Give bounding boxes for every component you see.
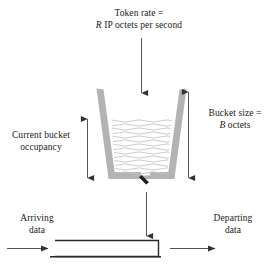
token-rate-units: IP octets per second <box>102 20 182 30</box>
token-rate-line2: R IP octets per second <box>84 20 194 32</box>
occupancy-line2: occupancy <box>6 142 76 154</box>
figure-canvas: Token rate = R IP octets per second Buck… <box>0 0 275 271</box>
data-pipe <box>55 241 159 257</box>
arriving-line2: data <box>10 225 64 237</box>
bucket-left-wall <box>97 89 116 179</box>
bucket-size-units: octets <box>225 120 250 130</box>
arriving-data-label: Arriving data <box>10 213 64 236</box>
bucket-size-label: Bucket size = B octets <box>197 108 273 131</box>
bucket-size-line1: Bucket size = <box>197 108 273 120</box>
arriving-line1: Arriving <box>10 213 64 225</box>
bucket-size-line2: B octets <box>197 120 273 132</box>
departing-line1: Departing <box>203 213 263 225</box>
departing-line2: data <box>203 225 263 237</box>
departing-data-label: Departing data <box>203 213 263 236</box>
token-rate-label: Token rate = R IP octets per second <box>84 8 194 31</box>
current-bucket-occupancy-label: Current bucket occupancy <box>6 130 76 153</box>
token-rate-line1: Token rate = <box>84 8 194 20</box>
occupancy-line1: Current bucket <box>6 130 76 142</box>
